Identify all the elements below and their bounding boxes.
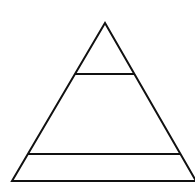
pyramid-outline xyxy=(12,23,195,181)
pyramid-diagram xyxy=(0,0,195,185)
